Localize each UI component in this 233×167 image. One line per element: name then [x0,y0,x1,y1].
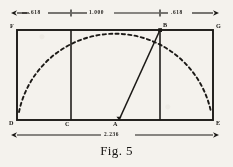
top-dimension-label-right: .618 [171,10,183,15]
rectangle-FGED [17,30,213,120]
vertex-label-D: D [9,120,13,126]
figure-caption: Fig. 5 [0,143,233,159]
vertex-label-G: G [216,23,221,29]
figure-vector-canvas [0,0,233,167]
top-dimension-line [17,10,213,17]
dashed-semicircle-arc [19,34,211,112]
point-marker-B [158,28,162,32]
vertex-label-B: B [163,22,167,28]
top-dimension-label-left: .618 [29,10,41,15]
figure-5-diagram: .618 1.000 .618 2.236 F G D E C A B Fig.… [0,0,233,167]
vertex-label-C: C [65,121,69,127]
vertex-label-E: E [216,120,220,126]
vertex-label-A: A [113,121,117,127]
top-dimension-label-center: 1.000 [89,10,104,15]
vertex-label-F: F [10,23,14,29]
bottom-dimension-label: 2.236 [104,132,119,137]
diagonal-line-A-B [119,30,160,120]
